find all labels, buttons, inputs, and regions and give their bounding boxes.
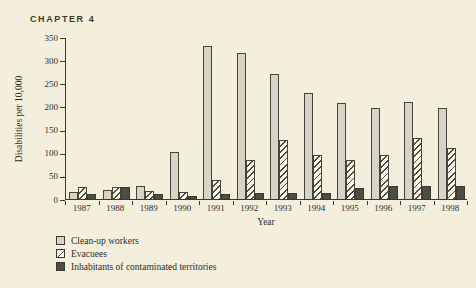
legend-swatch-inhabitants-of-contaminated-territories bbox=[56, 262, 65, 271]
x-tick-label-1996: 1996 bbox=[366, 203, 400, 213]
bar-evacuees-1987 bbox=[78, 187, 87, 199]
x-tick-label-1993: 1993 bbox=[266, 203, 300, 213]
bar-clean-up-workers-1989 bbox=[136, 186, 145, 199]
bar-evacuees-1989 bbox=[145, 191, 154, 199]
bar-evacuees-1997 bbox=[413, 138, 422, 199]
y-axis-tick bbox=[60, 38, 65, 39]
x-tick-label-1992: 1992 bbox=[232, 203, 266, 213]
book-page: CHAPTER 4 Disabilities per 10,000 198719… bbox=[0, 0, 476, 288]
bar-inhabitants-of-contaminated-territories-1987 bbox=[87, 194, 96, 199]
bar-clean-up-workers-1997 bbox=[404, 102, 413, 199]
x-axis-tick bbox=[367, 201, 368, 205]
bar-clean-up-workers-1998 bbox=[438, 108, 447, 199]
bar-inhabitants-of-contaminated-territories-1996 bbox=[389, 186, 398, 199]
bar-clean-up-workers-1991 bbox=[203, 46, 212, 199]
y-axis-title: Disabilities per 10,000 bbox=[14, 38, 26, 200]
legend-label: Clean-up workers bbox=[71, 235, 139, 247]
y-tick-label-250: 250 bbox=[28, 79, 58, 90]
bar-clean-up-workers-1995 bbox=[337, 103, 346, 199]
x-tick-label-1988: 1988 bbox=[98, 203, 132, 213]
bar-evacuees-1994 bbox=[313, 155, 322, 199]
bar-clean-up-workers-1990 bbox=[170, 152, 179, 199]
bar-evacuees-1995 bbox=[346, 160, 355, 199]
x-tick-label-1994: 1994 bbox=[299, 203, 333, 213]
x-tick-label-1997: 1997 bbox=[400, 203, 434, 213]
bar-inhabitants-of-contaminated-territories-1995 bbox=[355, 188, 364, 199]
bar-clean-up-workers-1987 bbox=[69, 192, 78, 199]
x-tick-label-1990: 1990 bbox=[165, 203, 199, 213]
x-axis-tick bbox=[166, 201, 167, 205]
bar-clean-up-workers-1994 bbox=[304, 93, 313, 199]
legend-swatch-clean-up-workers bbox=[56, 236, 65, 245]
y-axis-tick bbox=[60, 61, 65, 62]
y-tick-label-350: 350 bbox=[28, 33, 58, 44]
y-axis-tick bbox=[60, 154, 65, 155]
y-tick-label-50: 50 bbox=[28, 171, 58, 182]
y-tick-label-0: 0 bbox=[28, 195, 58, 206]
x-tick-label-1987: 1987 bbox=[65, 203, 99, 213]
x-axis-tick bbox=[233, 201, 234, 205]
x-axis-tick bbox=[400, 201, 401, 205]
bar-evacuees-1990 bbox=[179, 192, 188, 199]
chart-legend: Clean-up workersEvacueesInhabitants of c… bbox=[56, 234, 216, 273]
bar-evacuees-1992 bbox=[246, 160, 255, 199]
chapter-heading: CHAPTER 4 bbox=[30, 14, 95, 24]
y-axis-tick bbox=[60, 84, 65, 85]
bar-clean-up-workers-1993 bbox=[270, 74, 279, 199]
bar-inhabitants-of-contaminated-territories-1989 bbox=[154, 194, 163, 199]
y-axis-tick bbox=[60, 107, 65, 108]
bar-inhabitants-of-contaminated-territories-1997 bbox=[422, 186, 431, 199]
y-tick-label-200: 200 bbox=[28, 102, 58, 113]
bar-clean-up-workers-1996 bbox=[371, 108, 380, 199]
bar-evacuees-1988 bbox=[112, 187, 121, 199]
x-axis-tick bbox=[266, 201, 267, 205]
x-axis-tick bbox=[467, 201, 468, 205]
y-tick-label-150: 150 bbox=[28, 125, 58, 136]
bar-inhabitants-of-contaminated-territories-1990 bbox=[188, 196, 197, 199]
bar-inhabitants-of-contaminated-territories-1988 bbox=[121, 187, 130, 199]
y-axis-tick bbox=[60, 177, 65, 178]
x-tick-label-1989: 1989 bbox=[132, 203, 166, 213]
plot-area bbox=[65, 38, 467, 200]
bar-clean-up-workers-1992 bbox=[237, 53, 246, 199]
bar-evacuees-1991 bbox=[212, 180, 221, 199]
y-tick-label-100: 100 bbox=[28, 148, 58, 159]
bar-inhabitants-of-contaminated-territories-1994 bbox=[322, 193, 331, 199]
bar-inhabitants-of-contaminated-territories-1992 bbox=[255, 193, 264, 199]
x-axis-tick bbox=[132, 201, 133, 205]
x-axis-tick bbox=[300, 201, 301, 205]
legend-swatch-evacuees bbox=[56, 249, 65, 258]
bar-evacuees-1996 bbox=[380, 155, 389, 199]
y-tick-label-300: 300 bbox=[28, 56, 58, 67]
bar-clean-up-workers-1988 bbox=[103, 190, 112, 199]
legend-label: Inhabitants of contaminated territories bbox=[71, 261, 216, 273]
legend-item-evacuees: Evacuees bbox=[56, 247, 216, 260]
legend-label: Evacuees bbox=[71, 248, 107, 260]
y-axis-tick bbox=[60, 200, 65, 201]
bar-inhabitants-of-contaminated-territories-1991 bbox=[221, 194, 230, 199]
bar-inhabitants-of-contaminated-territories-1998 bbox=[456, 186, 465, 199]
x-axis-tick bbox=[333, 201, 334, 205]
bar-evacuees-1998 bbox=[447, 148, 456, 199]
bar-evacuees-1993 bbox=[279, 140, 288, 199]
x-axis-tick bbox=[199, 201, 200, 205]
y-axis-tick bbox=[60, 131, 65, 132]
x-tick-label-1995: 1995 bbox=[333, 203, 367, 213]
legend-item-inhabitants-of-contaminated-territories: Inhabitants of contaminated territories bbox=[56, 260, 216, 273]
x-tick-label-1998: 1998 bbox=[433, 203, 467, 213]
x-axis-tick bbox=[99, 201, 100, 205]
bar-inhabitants-of-contaminated-territories-1993 bbox=[288, 193, 297, 199]
x-axis-tick bbox=[434, 201, 435, 205]
legend-item-clean-up-workers: Clean-up workers bbox=[56, 234, 216, 247]
x-axis-tick bbox=[65, 201, 66, 205]
x-axis-title: Year bbox=[65, 217, 467, 227]
x-tick-label-1991: 1991 bbox=[199, 203, 233, 213]
